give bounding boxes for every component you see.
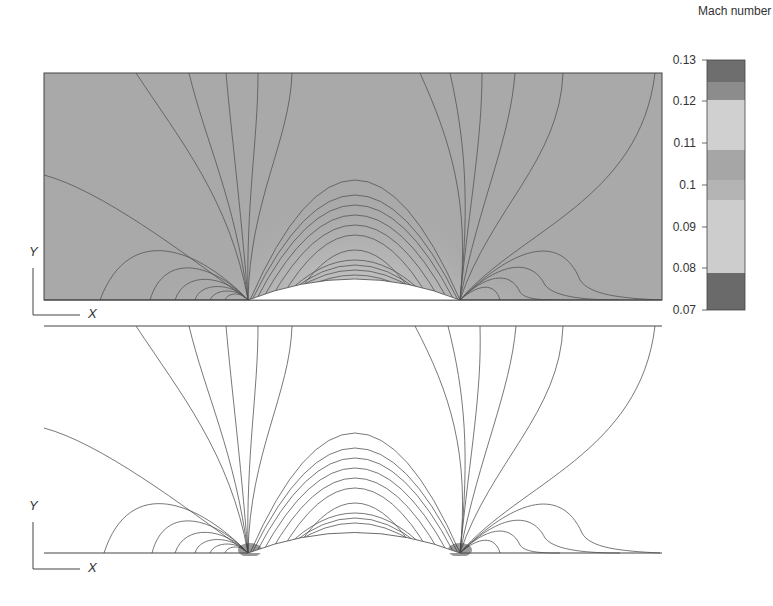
colorbar [702, 60, 745, 310]
bottom-panel [44, 326, 660, 557]
colorbar-tick: 0.1 [652, 178, 696, 192]
bottom-x-label: X [88, 560, 97, 575]
colorbar-tick: 0.09 [652, 220, 696, 234]
bottom-axes-icon [33, 522, 80, 569]
bottom-y-label: Y [29, 498, 38, 513]
colorbar-tick: 0.07 [652, 303, 696, 317]
colorbar-tick: 0.11 [652, 136, 696, 150]
colorbar-tick: 0.08 [652, 261, 696, 275]
top-x-label: X [88, 306, 97, 321]
colorbar-tick: 0.13 [652, 53, 696, 67]
top-panel [44, 73, 662, 440]
top-y-label: Y [29, 244, 38, 259]
bottom-bump [248, 533, 460, 554]
colorbar-tick: 0.12 [652, 94, 696, 108]
colorbar-title: Mach number [698, 4, 771, 18]
